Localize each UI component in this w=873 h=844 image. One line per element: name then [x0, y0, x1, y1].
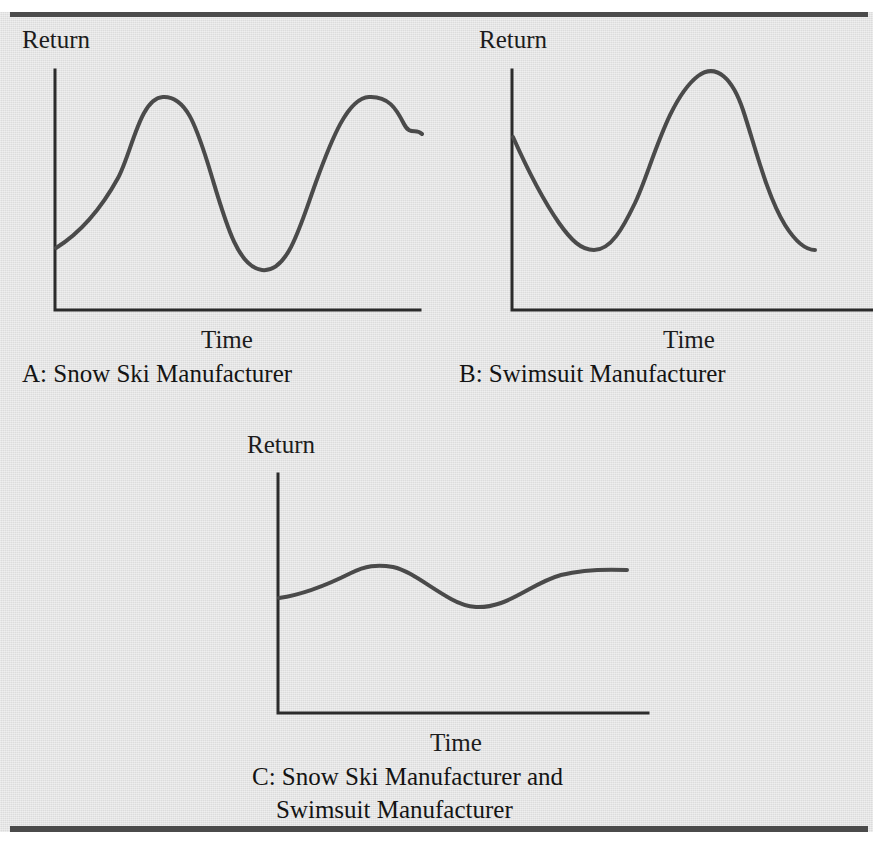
- panel-b-y-axis-label: Return: [479, 26, 547, 54]
- figure-container: Return Time A: Snow Ski Manufacturer Ret…: [0, 0, 873, 844]
- panel-a-caption: A: Snow Ski Manufacturer: [22, 357, 292, 390]
- panel-a-chart: [0, 60, 440, 325]
- panel-b-caption: B: Swimsuit Manufacturer: [459, 357, 726, 390]
- panel-a-series-line: [56, 97, 422, 270]
- panel-c-caption-line-1: C: Snow Ski Manufacturer and: [252, 760, 563, 793]
- top-rule-divider: [10, 12, 868, 17]
- panel-a-y-axis-label: Return: [22, 26, 90, 54]
- panel-b-x-axis-label: Time: [663, 326, 715, 354]
- panel-b-axes: [512, 70, 873, 310]
- panel-c-axes: [278, 474, 648, 713]
- panel-c-y-axis-label: Return: [247, 431, 315, 459]
- panel-c-caption: C: Snow Ski Manufacturer and Swimsuit Ma…: [252, 760, 563, 826]
- bottom-rule-divider: [10, 826, 868, 832]
- panel-c-series-line: [279, 566, 627, 607]
- panel-c-x-axis-label: Time: [430, 729, 482, 757]
- page-margin-bottom: [0, 832, 873, 844]
- panel-a-x-axis-label: Time: [201, 326, 253, 354]
- panel-b-series-line: [513, 71, 815, 250]
- page-margin-top: [0, 0, 873, 12]
- panel-c-caption-line-2: Swimsuit Manufacturer: [252, 793, 563, 826]
- panel-b-chart: [455, 60, 873, 325]
- panel-c-chart: [225, 465, 665, 730]
